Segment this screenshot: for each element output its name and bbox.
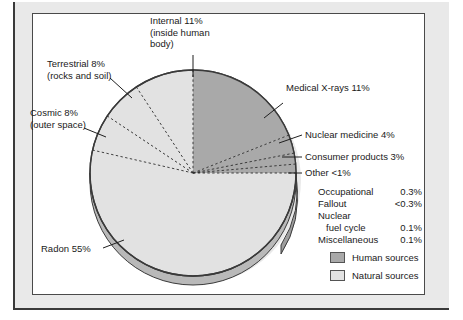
leader-terrestrial (110, 78, 132, 98)
label-terrestrial-line1: Terrestrial 8% (47, 58, 111, 70)
other-row-nuclear: Nuclear (318, 210, 422, 222)
other-row-value: <0.3% (395, 198, 422, 210)
other-breakdown-list: Occupational 0.3% Fallout <0.3% Nuclear … (318, 186, 422, 246)
label-cosmic-line2: (outer space) (30, 119, 86, 131)
chart-legend: Human sources Natural sources (330, 252, 419, 288)
legend-item-natural-sources: Natural sources (330, 270, 419, 281)
other-row-fuel-cycle: fuel cycle 0.1% (318, 222, 422, 234)
label-internal: Internal 11% (inside human body) (150, 15, 210, 50)
other-row-miscellaneous: Miscellaneous 0.1% (318, 234, 422, 246)
label-cosmic: Cosmic 8% (outer space) (30, 107, 86, 130)
legend-label-human: Human sources (352, 252, 419, 263)
label-nuclear-medicine: Nuclear medicine 4% (305, 129, 395, 141)
other-row-occupational: Occupational 0.3% (318, 186, 422, 198)
other-row-value: 0.1% (400, 234, 422, 246)
label-internal-line2: (inside human (150, 27, 210, 39)
other-row-name: Occupational (318, 186, 373, 198)
figure-root: Internal 11% (inside human body) Terrest… (0, 0, 463, 320)
label-other: Other <1% (305, 167, 351, 179)
label-medical-xrays: Medical X-rays 11% (286, 82, 370, 94)
label-consumer-products: Consumer products 3% (305, 151, 404, 163)
other-row-name: Miscellaneous (318, 234, 378, 246)
other-row-value: 0.1% (400, 222, 422, 234)
legend-swatch-human (330, 252, 345, 263)
other-row-name: fuel cycle (318, 222, 366, 234)
label-internal-line3: body) (150, 38, 210, 50)
legend-swatch-natural (330, 270, 345, 281)
label-cosmic-line1: Cosmic 8% (30, 107, 86, 119)
other-row-name: Nuclear (318, 210, 351, 222)
other-row-name: Fallout (318, 198, 347, 210)
other-row-fallout: Fallout <0.3% (318, 198, 422, 210)
label-internal-line1: Internal 11% (150, 15, 210, 27)
other-row-value: 0.3% (400, 186, 422, 198)
legend-item-human-sources: Human sources (330, 252, 419, 263)
label-terrestrial-line2: (rocks and soil) (47, 70, 111, 82)
label-terrestrial: Terrestrial 8% (rocks and soil) (47, 58, 111, 81)
legend-label-natural: Natural sources (352, 270, 419, 281)
label-radon: Radon 55% (41, 243, 91, 255)
